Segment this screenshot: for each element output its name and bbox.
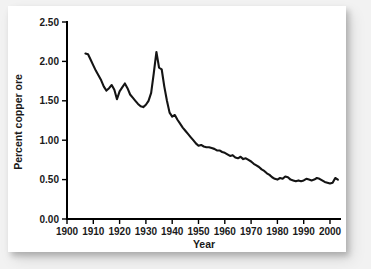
y-tick-label: 2.00 bbox=[40, 56, 60, 67]
x-tick-label: 1950 bbox=[187, 226, 210, 237]
x-tick-label: 1910 bbox=[82, 226, 105, 237]
x-tick-label: 1990 bbox=[293, 226, 316, 237]
x-axis-tick-labels: 1900191019201930194019501960197019801990… bbox=[56, 226, 342, 237]
y-axis-tick-labels: 0.000.501.001.502.002.50 bbox=[40, 17, 60, 225]
x-tick-label: 1920 bbox=[108, 226, 131, 237]
y-tick-label: 0.50 bbox=[40, 174, 60, 185]
y-tick-label: 2.50 bbox=[40, 17, 60, 28]
x-tick-label: 1980 bbox=[266, 226, 289, 237]
figure-root: 0.000.501.001.502.002.50 190019101920193… bbox=[0, 0, 371, 269]
y-axis-title: Percent copper ore bbox=[12, 74, 24, 170]
x-tick-label: 1940 bbox=[161, 226, 184, 237]
x-axis-title: Year bbox=[193, 238, 215, 250]
y-tick-label: 1.00 bbox=[40, 135, 60, 146]
y-tick-label: 0.00 bbox=[40, 214, 60, 225]
x-tick-label: 1970 bbox=[240, 226, 263, 237]
x-tick-label: 2000 bbox=[319, 226, 342, 237]
axis-lines bbox=[67, 22, 340, 219]
y-tick-label: 1.50 bbox=[40, 95, 60, 106]
x-tick-label: 1900 bbox=[56, 226, 79, 237]
x-tick-label: 1960 bbox=[214, 226, 237, 237]
copper-ore-line-chart: 0.000.501.001.502.002.50 190019101920193… bbox=[0, 0, 371, 269]
x-tick-label: 1930 bbox=[135, 226, 158, 237]
data-series-line bbox=[85, 52, 337, 184]
